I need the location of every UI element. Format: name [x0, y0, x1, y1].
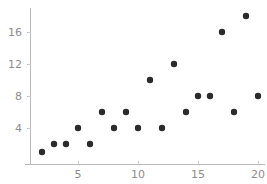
y-tick-label: 16 [8, 26, 22, 39]
data-point [63, 141, 69, 147]
data-point [195, 93, 201, 99]
y-axis: 481216 [8, 8, 31, 164]
data-point [87, 141, 93, 147]
data-point [231, 109, 237, 115]
data-point [75, 125, 81, 131]
data-point [243, 13, 249, 19]
data-point [219, 29, 225, 35]
data-point [111, 125, 117, 131]
data-point [207, 93, 213, 99]
data-point [123, 109, 129, 115]
data-point [147, 77, 153, 83]
x-tick-label: 10 [131, 168, 145, 181]
x-tick-label: 20 [251, 168, 265, 181]
data-point [99, 109, 105, 115]
scatter-chart: 481216 5101520 [0, 0, 267, 184]
data-point [171, 61, 177, 67]
data-point [51, 141, 57, 147]
data-point [183, 109, 189, 115]
x-tick-label: 5 [75, 168, 82, 181]
data-point [159, 125, 165, 131]
x-tick-label: 15 [191, 168, 205, 181]
plot-area: 481216 5101520 [0, 0, 267, 184]
data-point [255, 93, 261, 99]
data-point [135, 125, 141, 131]
x-axis: 5101520 [25, 161, 265, 181]
y-tick-label: 8 [15, 90, 22, 103]
y-tick-label: 4 [15, 122, 22, 135]
data-point [39, 149, 45, 155]
data-points-layer [39, 13, 261, 155]
y-tick-label: 12 [8, 58, 22, 71]
